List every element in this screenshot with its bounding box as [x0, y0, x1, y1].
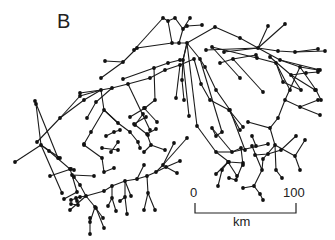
- network-node: [281, 80, 285, 84]
- network-node: [136, 140, 140, 144]
- network-node: [155, 120, 159, 124]
- network-node: [199, 82, 203, 86]
- network-node: [204, 48, 208, 52]
- network-node: [254, 144, 258, 148]
- network-node: [78, 195, 82, 199]
- network-node: [153, 98, 157, 102]
- network-node: [166, 61, 170, 65]
- network-figure: B: [0, 0, 335, 240]
- network-node: [78, 183, 82, 187]
- network-node: [164, 165, 168, 169]
- network-nodes: [13, 16, 327, 236]
- scale-bar: [195, 203, 296, 213]
- network-node: [181, 27, 185, 31]
- network-node: [266, 142, 270, 146]
- network-node: [227, 176, 231, 180]
- network-node: [100, 156, 104, 160]
- network-node: [85, 116, 89, 120]
- network-node: [178, 63, 182, 67]
- network-node: [142, 163, 146, 167]
- network-node: [126, 82, 130, 86]
- network-node: [88, 232, 92, 236]
- network-node: [316, 98, 320, 102]
- network-node: [76, 203, 80, 207]
- network-node: [144, 115, 148, 119]
- network-node: [123, 179, 127, 183]
- network-node: [208, 98, 212, 102]
- network-node: [250, 134, 254, 138]
- network-node: [178, 159, 182, 163]
- network-node: [170, 41, 174, 45]
- network-node: [132, 122, 136, 126]
- network-node: [172, 141, 176, 145]
- network-node: [260, 168, 264, 172]
- network-node: [238, 76, 242, 80]
- network-node: [142, 208, 146, 212]
- network-node: [213, 25, 217, 29]
- network-node: [102, 170, 106, 174]
- network-node: [276, 116, 280, 120]
- network-node: [216, 184, 220, 188]
- network-node: [60, 191, 64, 195]
- network-node: [89, 130, 93, 134]
- network-node: [238, 36, 242, 40]
- network-node: [195, 124, 199, 128]
- network-node: [99, 76, 103, 80]
- network-node: [145, 174, 149, 178]
- network-node: [100, 146, 104, 150]
- network-node: [279, 148, 283, 152]
- network-node: [138, 146, 142, 150]
- network-node: [185, 41, 189, 45]
- network-node: [118, 199, 122, 203]
- network-node: [256, 46, 260, 50]
- network-node: [148, 76, 152, 80]
- network-node: [230, 150, 234, 154]
- network-node: [241, 186, 245, 190]
- network-node: [69, 198, 73, 202]
- network-node: [200, 23, 204, 27]
- network-node: [39, 143, 43, 147]
- network-node: [316, 47, 320, 51]
- network-node: [69, 167, 73, 171]
- network-node: [185, 136, 189, 140]
- network-node: [175, 171, 179, 175]
- network-node: [214, 150, 218, 154]
- network-node: [234, 178, 238, 182]
- network-node: [298, 168, 302, 172]
- network-node: [214, 134, 218, 138]
- network-node: [241, 163, 245, 167]
- network-node: [116, 121, 120, 125]
- network-node: [153, 208, 157, 212]
- network-node: [110, 184, 114, 188]
- network-node: [314, 88, 318, 92]
- network-node: [192, 57, 196, 61]
- network-node: [226, 160, 230, 164]
- network-node: [283, 22, 287, 26]
- network-node: [293, 50, 297, 54]
- network-node: [304, 71, 308, 75]
- network-node: [163, 68, 167, 72]
- network-node: [102, 108, 106, 112]
- network-node: [123, 195, 127, 199]
- network-diagram: [0, 0, 335, 240]
- network-node: [261, 157, 265, 161]
- scale-end-label: 100: [283, 185, 305, 200]
- network-node: [278, 58, 282, 62]
- network-node: [104, 134, 108, 138]
- network-node: [266, 152, 270, 156]
- network-node: [101, 216, 105, 220]
- network-node: [166, 19, 170, 23]
- network-node: [210, 126, 214, 130]
- network-node: [266, 24, 270, 28]
- network-node: [116, 148, 120, 152]
- network-node: [182, 98, 186, 102]
- network-node: [103, 59, 107, 63]
- network-node: [299, 88, 303, 92]
- network-node: [47, 149, 51, 153]
- network-node: [154, 170, 158, 174]
- network-node: [109, 150, 113, 154]
- network-node: [154, 127, 158, 131]
- network-node: [112, 130, 116, 134]
- network-node: [94, 206, 98, 210]
- network-node: [173, 16, 177, 20]
